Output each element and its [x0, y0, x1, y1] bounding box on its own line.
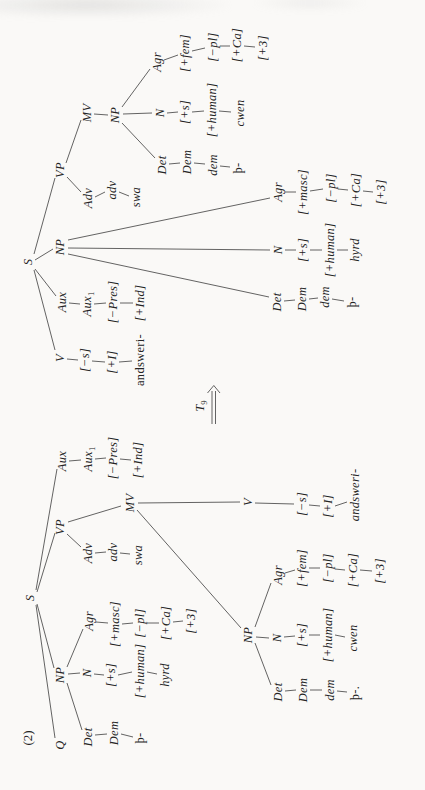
tree2-node-Aux: Aux: [56, 292, 69, 312]
figure-canvas: (2) T9 SQNPVPAuxAux1[−Pres][+Ind]DetDemþ…: [0, 0, 425, 790]
tree1-node-[+I]: [+I]: [322, 494, 335, 518]
tree2-node-swa: swa: [130, 187, 143, 207]
tree2-node-[−s]: [−s]: [79, 348, 92, 372]
tree1-node-þ-: þ-.: [349, 686, 362, 700]
tree2-node-þ-: þ-: [232, 162, 245, 173]
tree2-node-[+s]: [+s]: [297, 238, 310, 262]
tree-nodes-layer: (2) T9 SQNPVPAuxAux1[−Pres][+Ind]DetDemþ…: [0, 0, 425, 790]
tree1-node-þ-: þ-: [134, 732, 147, 743]
tree1-node-dem: dem: [324, 679, 337, 701]
tree2-node-þ-: þ-: [346, 296, 359, 307]
tree2-node-[+Ca]: [+Ca]: [350, 173, 363, 207]
example-number: (2): [20, 730, 36, 745]
tree2-node-V: V: [54, 354, 67, 362]
tree1-node-Dem: Dem: [108, 721, 121, 746]
tree1-node-Aux: Aux1: [82, 447, 95, 472]
tree2-node-hyrd: hyrd: [349, 238, 362, 262]
tree2-node-S: S: [22, 259, 35, 266]
tree1-node-N: N: [271, 634, 284, 643]
tree2-node-Aux: Aux1: [81, 292, 94, 317]
tree2-node-[+I]: [+I]: [106, 350, 119, 374]
tree1-node-[+s]: [+s]: [105, 663, 118, 687]
tree1-node-[+Ca]: [+Ca]: [160, 606, 173, 640]
tree1-node-VP: VP: [54, 519, 67, 535]
tree1-node-[+Ind]: [+Ind]: [132, 442, 145, 479]
tree1-node-S: S: [24, 595, 37, 602]
tree2-node-[+Ca]: [+Ca]: [231, 28, 244, 62]
tree1-node-andsweri-: andsweri-: [349, 469, 362, 522]
transform-rule-subscript: 9: [199, 401, 209, 405]
tree2-node-VP: VP: [54, 162, 67, 178]
tree2-node-[−pl]: [−pl]: [207, 32, 220, 61]
tree1-node-swa: swa: [132, 545, 145, 565]
tree1-node-Dem: Dem: [297, 678, 310, 703]
tree1-node-[+3]: [+3]: [185, 608, 198, 634]
tree1-node-Agr: Agr: [272, 565, 285, 585]
tree1-node-Q: Q: [54, 740, 67, 749]
tree2-node-Dem: Dem: [296, 287, 309, 312]
tree2-node-N: N: [154, 109, 167, 118]
tree2-node-[+3]: [+3]: [375, 179, 388, 205]
tree2-node-Det: Det: [156, 156, 169, 175]
tree1-node-Det: Det: [272, 683, 285, 702]
tree1-node-V: V: [242, 498, 255, 506]
tree1-node-[+fem]: [+fem]: [296, 549, 309, 587]
tree1-node-MV: MV: [124, 494, 137, 513]
tree2-node-[+s]: [+s]: [179, 100, 192, 124]
tree1-node-N: N: [81, 669, 94, 678]
scanned-page: (2) T9 SQNPVPAuxAux1[−Pres][+Ind]DetDemþ…: [0, 0, 425, 790]
tree2-node-[−Pres]: [−Pres]: [107, 281, 120, 324]
tree1-node-[+Ca]: [+Ca]: [347, 553, 360, 587]
tree2-node-[+human]: [+human]: [206, 83, 219, 138]
tree2-node-[+Ind]: [+Ind]: [134, 285, 147, 322]
tree1-node-NP: NP: [54, 667, 67, 684]
tree1-node-Adv: Adv: [82, 543, 95, 563]
tree2-node-MV: MV: [81, 104, 94, 123]
tree1-node-[−pl]: [−pl]: [134, 608, 147, 637]
tree2-node-NP: NP: [109, 107, 122, 124]
tree1-node-adv: adv: [107, 543, 120, 562]
tree2-node-NP: NP: [54, 239, 67, 256]
tree2-node-N: N: [272, 246, 285, 255]
tree2-node-Det: Det: [271, 293, 284, 312]
tree1-node-Det: Det: [82, 728, 95, 747]
tree1-node-hyrd: hyrd: [159, 663, 172, 687]
tree2-node-[+masc]: [+masc]: [297, 169, 310, 215]
tree1-node-Agr: Agr: [83, 611, 96, 631]
tree2-node-Dem: Dem: [181, 150, 194, 175]
tree2-node-Adv: Adv: [82, 188, 95, 208]
tree1-node-[+human]: [+human]: [322, 608, 335, 663]
tree1-node-[+3]: [+3]: [374, 558, 387, 584]
tree2-node-dem: dem: [207, 154, 220, 176]
tree2-node-[+fem]: [+fem]: [179, 34, 192, 72]
tree2-node-Agr: Agr: [272, 182, 285, 202]
tree1-node-cwen: cwen: [347, 625, 360, 652]
tree2-node-dem: dem: [319, 286, 332, 308]
tree1-node-NP: NP: [242, 627, 255, 644]
tree1-node-[−Pres]: [−Pres]: [107, 437, 120, 480]
tree1-node-[+human]: [+human]: [134, 644, 147, 699]
transform-rule-base: T: [193, 405, 207, 412]
tree2-node-Agr: Agr: [151, 52, 164, 72]
transform-rule-label: T9: [193, 401, 208, 412]
tree2-node-[−pl]: [−pl]: [325, 173, 338, 202]
tree1-node-[+s]: [+s]: [296, 623, 309, 647]
tree1-node-[−pl]: [−pl]: [322, 553, 335, 582]
tree2-node-[+human]: [+human]: [324, 223, 337, 278]
tree1-node-[−s]: [−s]: [296, 492, 309, 516]
tree2-node-cwen: cwen: [234, 100, 247, 127]
tree1-node-[+masc]: [+masc]: [109, 601, 122, 647]
tree2-node-[+3]: [+3]: [257, 35, 270, 61]
tree1-node-Aux: Aux: [56, 451, 69, 471]
tree2-node-andsweri-: andsweri-: [134, 334, 147, 386]
tree2-node-adv: adv: [106, 181, 119, 200]
